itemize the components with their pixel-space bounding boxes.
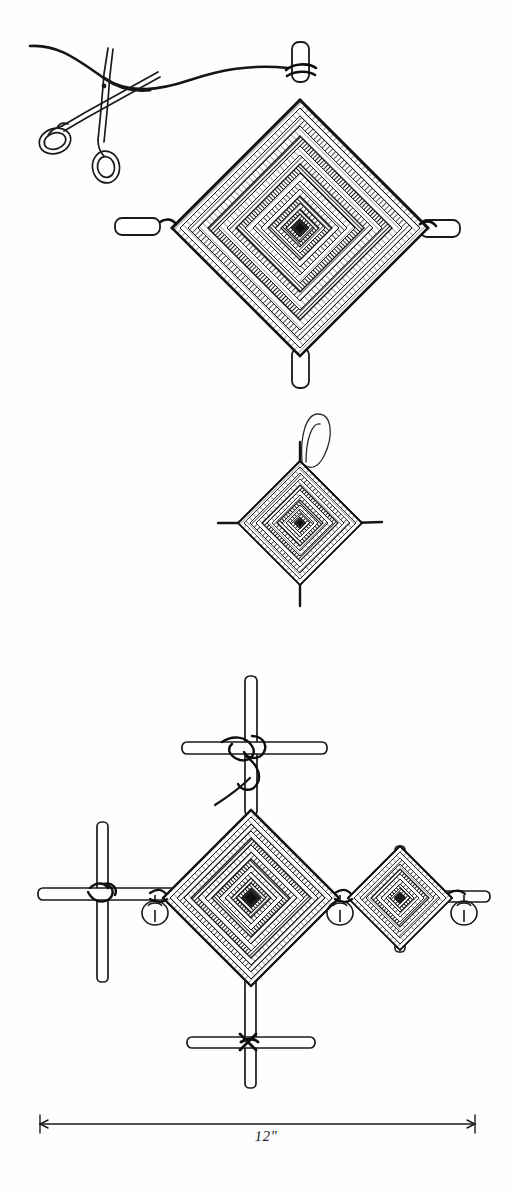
stick-end-left: [115, 218, 160, 235]
dimension-label: 12": [236, 1127, 296, 1146]
stick-end-top: [292, 42, 309, 82]
illustration-page: 12": [0, 0, 514, 1193]
cross-bottom-vertical-stick: [245, 970, 256, 1088]
drawing-canvas: [0, 0, 514, 1193]
